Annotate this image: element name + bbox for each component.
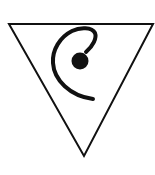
- inverted-triangle-spiral-icon: [0, 0, 155, 175]
- center-dot-shape: [72, 53, 89, 70]
- inverted-triangle-shape: [9, 24, 153, 156]
